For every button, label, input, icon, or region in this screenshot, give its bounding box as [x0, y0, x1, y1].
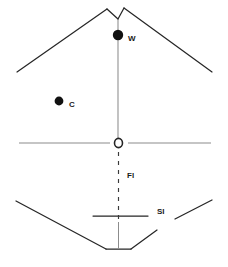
- markers: [55, 30, 124, 148]
- o-marker-ring[interactable]: [115, 138, 123, 147]
- apex-notch-left-line: [107, 9, 118, 19]
- label-c: C: [69, 100, 75, 109]
- floor-right-upper-line: [175, 200, 212, 219]
- label-w: W: [128, 34, 136, 43]
- reference-axes: [19, 19, 211, 249]
- c-marker-dot[interactable]: [55, 97, 64, 106]
- label-fl: Fl: [127, 171, 134, 180]
- label-si: SI: [157, 207, 165, 216]
- diagram-svg: W C Fl SI: [0, 0, 228, 267]
- roof-right-line: [124, 8, 212, 72]
- floor-right-lower-line: [131, 230, 157, 249]
- outline-strokes: [16, 8, 212, 249]
- apex-notch-right-line: [118, 8, 124, 19]
- roof-left-line: [17, 9, 107, 72]
- labels: W C Fl SI: [69, 34, 165, 216]
- floor-left-line: [16, 201, 106, 249]
- w-marker-dot[interactable]: [113, 30, 123, 40]
- figure-canvas: W C Fl SI: [0, 0, 228, 267]
